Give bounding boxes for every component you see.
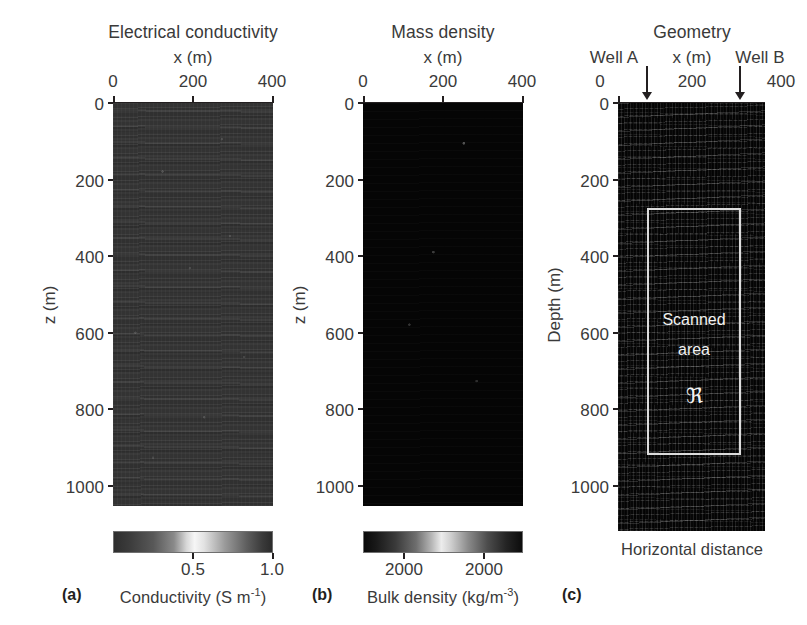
scanned-area-box: [647, 208, 741, 455]
panel-c-caption-label: (c): [562, 586, 582, 604]
panel-b-xtick-mark-400: [522, 96, 524, 103]
panel-a-colorbar-title-text: Conductivity (S m: [120, 588, 251, 606]
panel-b-ytick-600: 600: [325, 325, 354, 345]
figure-root: Electrical conductivity x (m) 0 200 400 …: [0, 0, 807, 625]
panel-b-colorbar-label-right: 2000: [465, 560, 503, 580]
region-symbol-fraktur-r: ℜ: [686, 384, 703, 408]
panel-b-ytick-400: 400: [325, 248, 354, 268]
panel-a-x-axis-label: x (m): [173, 48, 212, 68]
panel-a-colorbar: [113, 531, 273, 553]
panel-c-x-axis-label: x (m): [672, 48, 711, 68]
panel-a-colorbar-title-tail: ): [261, 588, 267, 606]
panel-b-colorbar-title-exponent: -3: [504, 586, 514, 598]
panel-a-caption-label: (a): [62, 586, 82, 604]
well-a-label: Well A: [590, 48, 638, 68]
panel-a-image: [113, 103, 273, 506]
panel-a-xtick-200: 200: [179, 72, 208, 92]
panel-b-colorbar-title: Bulk density (kg/m-3): [367, 586, 519, 607]
panel-a-y-axis-label: z (m): [40, 286, 60, 325]
panel-b-colorbar: [363, 531, 523, 553]
panel-a-title: Electrical conductivity: [108, 22, 278, 43]
panel-b-title: Mass density: [391, 22, 494, 43]
panel-a-colorbar-label-10: 1.0: [260, 560, 284, 580]
panel-b-xtick-mark-200: [442, 96, 444, 103]
panel-a-xtick-0: 0: [108, 72, 118, 92]
panel-b-x-axis-label: x (m): [423, 48, 462, 68]
panel-c-ytick-0: 0: [599, 95, 609, 115]
panel-c-ytick-600: 600: [580, 325, 609, 345]
scanned-area-label-line1: Scanned: [662, 311, 725, 329]
panel-a-colorbar-label-05: 0.5: [181, 560, 205, 580]
panel-c-ytick-800: 800: [580, 401, 609, 421]
panel-a-ytick-800: 800: [75, 401, 104, 421]
panel-b-ytick-800: 800: [325, 401, 354, 421]
scanned-area-label-line2: area: [678, 341, 710, 359]
panel-a-image-speckle: [113, 103, 273, 506]
panel-a-ytick-200: 200: [75, 172, 104, 192]
panel-c-xtick-400: 400: [767, 72, 796, 92]
panel-c-xtick-200: 200: [678, 72, 707, 92]
panel-c-y-axis-label: Depth (m): [545, 267, 565, 343]
panel-a-ytick-0: 0: [94, 95, 104, 115]
panel-c-ytick-400: 400: [580, 248, 609, 268]
panel-a-colorbar-title: Conductivity (S m-1): [120, 586, 267, 607]
panel-a-colorbar-title-exponent: -1: [251, 586, 261, 598]
panel-b-ytick-0: 0: [344, 95, 354, 115]
panel-b-colorbar-tick-left: [403, 553, 405, 559]
panel-b-colorbar-label-left: 2000: [385, 560, 423, 580]
panel-c-ytick-200: 200: [580, 172, 609, 192]
panel-b-ytick-200: 200: [325, 172, 354, 192]
panel-b-colorbar-title-tail: ): [513, 588, 519, 606]
panel-a-xtick-mark-200: [192, 96, 194, 103]
panel-b-colorbar-title-text: Bulk density (kg/m: [367, 588, 504, 606]
panel-b-colorbar-tick-right: [483, 553, 485, 559]
panel-b-caption-label: (b): [312, 586, 332, 604]
well-b-label: Well B: [735, 48, 784, 68]
panel-a-ytick-1000: 1000: [66, 478, 104, 498]
panel-c-bottom-axis-label: Horizontal distance: [621, 540, 763, 559]
panel-b-xtick-400: 400: [508, 72, 537, 92]
panel-a-ytick-600: 600: [75, 325, 104, 345]
panel-b-xtick-200: 200: [429, 72, 458, 92]
panel-b-image: [363, 103, 523, 506]
panel-b-image-speckle: [363, 103, 523, 506]
panel-b-xtick-0: 0: [358, 72, 368, 92]
panel-a-xtick-mark-400: [272, 96, 274, 103]
panel-c-ytick-1000: 1000: [571, 478, 609, 498]
panel-c-xtick-0: 0: [595, 72, 605, 92]
panel-b-y-axis-label: z (m): [290, 286, 310, 325]
panel-a-xtick-400: 400: [258, 72, 287, 92]
panel-a-colorbar-tick-05: [192, 553, 194, 559]
panel-c-title: Geometry: [653, 22, 731, 43]
panel-a-ytick-400: 400: [75, 248, 104, 268]
panel-a-colorbar-tick-10: [272, 553, 274, 559]
panel-b-ytick-1000: 1000: [316, 478, 354, 498]
